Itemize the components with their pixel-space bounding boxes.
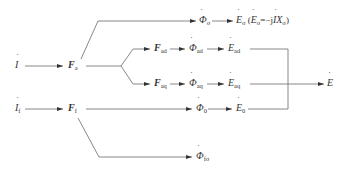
phasor-flow-diagram: I If Fa Ff Fad Faq Φσ Φad Φaq Φ0 Φfσ Eσ(… bbox=[0, 0, 345, 172]
label-e-sigma-with-note: Eσ(Eσ=−jIXσ) bbox=[236, 15, 289, 27]
label-ff: Ff bbox=[68, 103, 77, 115]
label-armature-current: I bbox=[15, 60, 18, 72]
label-e-resultant: E bbox=[327, 78, 333, 90]
label-phi-aq: Φaq bbox=[189, 78, 203, 90]
label-phi-f-sigma: Φfσ bbox=[196, 151, 209, 163]
arrow-branch-to-faq bbox=[121, 66, 150, 84]
label-e-aq: Eaq bbox=[228, 78, 240, 90]
label-field-current: If bbox=[15, 103, 21, 115]
label-e-ad: Ead bbox=[228, 43, 240, 55]
arrow-branch-to-fad bbox=[121, 49, 150, 66]
label-phi-0: Φ0 bbox=[196, 103, 207, 115]
label-phi-sigma: Φσ bbox=[199, 15, 210, 27]
label-fa: Fa bbox=[68, 60, 78, 72]
label-e-0: E0 bbox=[236, 103, 245, 115]
label-phi-ad: Φad bbox=[189, 43, 203, 55]
arrow-fa-to-phisigma bbox=[81, 21, 196, 59]
diagram-connectors bbox=[0, 0, 345, 172]
label-faq: Faq bbox=[154, 78, 167, 90]
arrow-ff-to-phifsigma bbox=[78, 118, 192, 157]
label-fad: Fad bbox=[154, 43, 167, 55]
